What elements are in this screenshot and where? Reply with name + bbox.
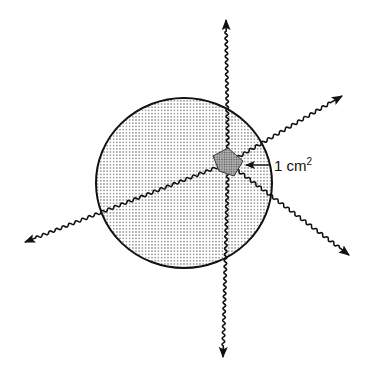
diagram-canvas bbox=[0, 0, 375, 379]
area-label: 1 cm2 bbox=[274, 156, 312, 174]
sphere bbox=[96, 98, 272, 268]
